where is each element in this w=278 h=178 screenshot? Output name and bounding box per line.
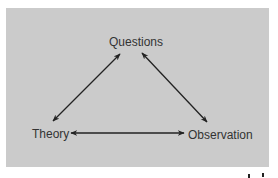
node-theory: Theory xyxy=(32,127,69,141)
node-questions: Questions xyxy=(109,35,163,49)
arrow-questions-observation xyxy=(142,53,207,122)
arrows-layer xyxy=(0,0,278,178)
node-observation: Observation xyxy=(188,128,253,142)
arrow-theory-questions xyxy=(53,54,120,121)
page-edge-mark xyxy=(248,174,250,178)
page-edge-mark xyxy=(262,173,264,177)
